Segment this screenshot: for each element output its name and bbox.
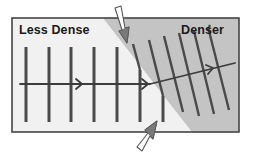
less-dense-label: Less Dense — [19, 24, 89, 37]
denser-label: Denser — [181, 24, 224, 37]
refraction-diagram: Less Dense Denser — [0, 0, 254, 153]
